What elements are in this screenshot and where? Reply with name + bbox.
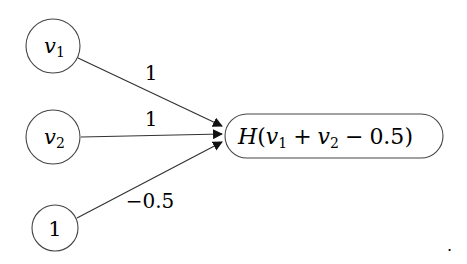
node-v2: v2: [26, 110, 80, 164]
node-output-label: H(v1+v2−0.5): [237, 124, 413, 151]
trailing-period: .: [447, 236, 452, 255]
node-bias-label: 1: [48, 217, 61, 241]
perceptron-diagram: 1 1 −0.5 v1 v2 1 H(v1+v2−0.5) .: [0, 0, 467, 264]
node-output: H(v1+v2−0.5): [225, 114, 443, 158]
node-bias: 1: [32, 205, 78, 251]
edge-bias-output: −0.5: [77, 142, 222, 218]
edge-weight-v1: 1: [145, 61, 158, 85]
edge-weight-v2: 1: [145, 107, 158, 131]
node-v1: v1: [26, 19, 80, 73]
edge-v2-output: 1: [81, 107, 222, 137]
edge-weight-bias: −0.5: [126, 189, 175, 213]
